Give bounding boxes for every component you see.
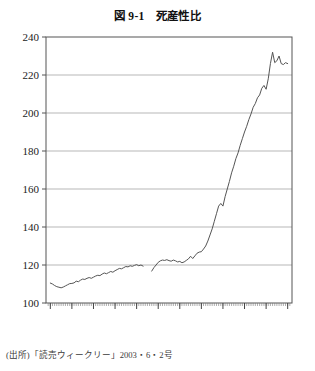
source-note: (出所)「読売ウィークリー」2003・6・2号 (6, 348, 173, 360)
chart-plot-area: 1001201401601802002202401900191019201930… (0, 30, 315, 310)
plot-frame (46, 37, 292, 303)
y-axis-tick-label: 140 (23, 221, 40, 233)
y-axis-tick-label: 120 (23, 259, 40, 271)
y-axis-tick-label: 180 (23, 145, 40, 157)
page-title: 図 9-1 死産性比 (0, 7, 315, 23)
data-series-line (152, 52, 288, 271)
y-axis-tick-label: 240 (23, 31, 40, 43)
y-axis-tick-label: 220 (23, 69, 40, 81)
figure-container: 図 9-1 死産性比 10012014016018020022024019001… (0, 0, 315, 371)
y-axis-tick-label: 160 (23, 183, 40, 195)
stillbirth-sex-ratio-line-chart: 1001201401601802002202401900191019201930… (0, 30, 315, 310)
y-axis-tick-label: 200 (23, 107, 40, 119)
data-series-line (50, 265, 143, 288)
y-axis-tick-label: 100 (23, 297, 40, 309)
